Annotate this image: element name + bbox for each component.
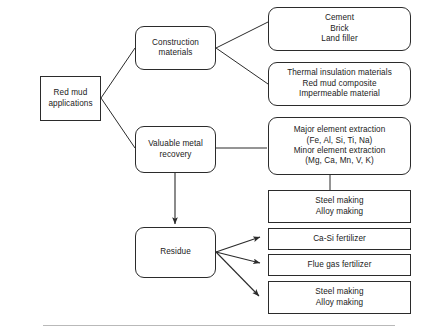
node-label-line: recovery [159, 150, 191, 160]
node-label-line: Minor element extraction [294, 146, 386, 156]
node-label-line: Alloy making [316, 298, 363, 308]
node-building-products[interactable]: Cement Brick Land filler [268, 7, 411, 51]
node-valuable-metal-recovery[interactable]: Valuable metal recovery [135, 126, 216, 173]
node-steel-alloy-making-lower[interactable]: Steel making Alloy making [268, 281, 411, 314]
node-label-line: (Mg, Ca, Mn, V, K) [305, 156, 374, 166]
node-red-mud-applications[interactable]: Red mud applications [40, 76, 101, 121]
node-label-line: Cement [325, 13, 354, 23]
node-label-line: Major element extraction [294, 125, 386, 135]
node-label-line: Alloy making [316, 207, 363, 217]
node-steel-alloy-making-upper[interactable]: Steel making Alloy making [268, 190, 411, 223]
node-label-line: Red mud composite [302, 79, 376, 89]
node-label-line: Flue gas fertilizer [308, 260, 372, 270]
node-label-line: Thermal insulation materials [287, 68, 392, 78]
flowchart-diagram: Red mud applications Construction materi… [0, 0, 423, 334]
node-element-extraction[interactable]: Major element extraction (Fe, Al, Si, Ti… [268, 117, 411, 175]
node-flue-gas-fertilizer[interactable]: Flue gas fertilizer [268, 254, 411, 276]
edge-residue-to-ca-si-fertilizer [216, 237, 260, 252]
node-label-line: Ca-Si fertilizer [313, 234, 366, 244]
node-ca-si-fertilizer[interactable]: Ca-Si fertilizer [268, 228, 411, 250]
node-label-line: materials [159, 48, 193, 58]
node-label-line: Steel making [315, 196, 363, 206]
bottom-divider-rule [43, 325, 395, 326]
node-label-line: Impermeable material [299, 89, 380, 99]
node-label-line: Construction [152, 38, 199, 48]
node-label-line: applications [48, 99, 92, 109]
node-label-line: Red mud [54, 88, 88, 98]
node-label-line: Brick [330, 24, 349, 34]
node-construction-materials[interactable]: Construction materials [135, 26, 216, 70]
node-residue[interactable]: Residue [135, 227, 216, 278]
node-label-line: Residue [160, 247, 191, 257]
node-label-line: Steel making [315, 287, 363, 297]
node-label-line: Valuable metal [148, 139, 203, 149]
edge-construction-to-insulation-products [216, 48, 268, 84]
edge-residue-to-flue-gas-fertilizer [216, 252, 260, 263]
node-insulation-products[interactable]: Thermal insulation materials Red mud com… [268, 62, 411, 106]
edge-root-to-metal-recovery [101, 98, 135, 148]
edge-construction-to-building-products [216, 22, 268, 48]
node-label-line: Land filler [321, 34, 357, 44]
edge-residue-to-steel-alloy-lower [216, 252, 259, 296]
edge-root-to-construction [101, 48, 135, 98]
node-label-line: (Fe, Al, Si, Ti, Na) [307, 136, 373, 146]
